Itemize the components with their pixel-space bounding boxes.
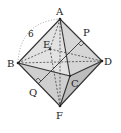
label-C: C	[71, 78, 79, 89]
label-D: D	[104, 56, 112, 67]
label-F: F	[56, 110, 63, 121]
label-B: B	[7, 58, 14, 69]
edge-length-label: 6	[28, 29, 34, 39]
label-E: E	[43, 39, 50, 50]
octahedron-diagram: A B C D E F P Q 6	[0, 0, 121, 133]
label-Q: Q	[29, 87, 37, 98]
label-P: P	[83, 27, 90, 38]
label-A: A	[55, 6, 64, 17]
